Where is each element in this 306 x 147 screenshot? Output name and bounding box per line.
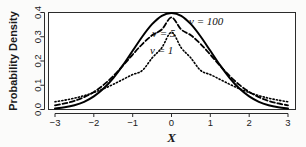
series-label-nu-100: ν = 100: [189, 15, 224, 27]
x-tick-label-6: 3: [285, 117, 290, 128]
x-axis-title: X: [166, 130, 176, 145]
y-axis-title: Probability Density: [7, 10, 19, 111]
y-tick-label-1: 0.1: [32, 79, 43, 92]
y-tick-label-2: 0.2: [32, 54, 43, 67]
x-tick-label-0: −3: [50, 117, 61, 128]
x-tick-label-5: 2: [247, 117, 252, 128]
x-tick-label-1: −2: [88, 117, 99, 128]
y-tick-label-0: 0.0: [32, 103, 43, 116]
x-tick-label-2: −1: [127, 117, 138, 128]
series-label-nu-1: ν = 1: [150, 44, 173, 56]
chart-figure: 0.0 0.1 0.2 0.3 0.4 Probability Density …: [0, 0, 306, 147]
x-tick-label-4: 1: [208, 117, 213, 128]
t-distribution-chart: 0.0 0.1 0.2 0.3 0.4 Probability Density …: [0, 0, 306, 147]
x-tick-label-3: 0: [169, 117, 174, 128]
y-tick-label-3: 0.3: [32, 30, 43, 43]
y-tick-label-4: 0.4: [32, 6, 43, 19]
series-label-nu-5: ν = 5: [152, 27, 176, 39]
